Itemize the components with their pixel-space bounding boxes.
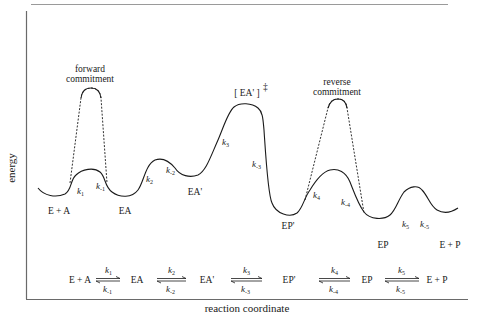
forward-commitment-curve — [70, 88, 107, 183]
rate-label-k-3: k-3 — [252, 159, 261, 170]
equilibrium-arrow-1 — [96, 277, 120, 284]
rate-label-k3: k3 — [222, 137, 229, 148]
scheme-species-ea-prime: EA' — [200, 275, 215, 285]
scheme-k-4: k-4 — [329, 284, 338, 295]
scheme-k1: k1 — [105, 265, 112, 276]
energy-profile-curve — [38, 104, 458, 219]
species-label-e-p: E + P — [439, 240, 460, 250]
reverse-commitment-label-2: commitment — [313, 87, 361, 97]
scheme-species-ea: EA — [131, 275, 144, 285]
rate-label-k-1: k-1 — [96, 181, 105, 192]
reverse-commitment-peak — [328, 99, 347, 108]
energy-diagram: energy reaction coordinate forward commi… — [0, 0, 480, 322]
scheme-k3: k3 — [243, 265, 250, 276]
reaction-scheme: E + A EA EA' EP' EP E + P k1 k2 k3 k4 k5… — [69, 265, 448, 295]
equilibrium-arrow-2 — [157, 277, 186, 284]
forward-commitment-label-2: commitment — [66, 74, 114, 84]
double-dagger-mark: ‡ — [263, 82, 268, 92]
scheme-species-ep: EP — [361, 275, 372, 285]
x-axis-label: reaction coordinate — [205, 302, 290, 314]
scheme-species-ep-prime: EP' — [283, 275, 296, 285]
scheme-k-3: k-3 — [241, 284, 250, 295]
scheme-k-5: k-5 — [396, 284, 405, 295]
species-label-ep-prime: EP' — [282, 221, 295, 231]
scheme-species-e-p: E + P — [426, 275, 447, 285]
equilibrium-arrow-3 — [231, 277, 262, 284]
y-axis-label: energy — [5, 153, 17, 183]
species-label-ep: EP — [377, 240, 388, 250]
scheme-k-2: k-2 — [166, 284, 175, 295]
scheme-k4: k4 — [331, 265, 338, 276]
species-label-ea-prime: EA' — [188, 187, 203, 197]
rate-label-k-5: k-5 — [420, 219, 429, 230]
rate-label-k4: k4 — [313, 190, 320, 201]
forward-commitment-label-1: forward — [75, 64, 105, 74]
scheme-species-e-a: E + A — [69, 275, 91, 285]
rate-label-k-4: k-4 — [341, 197, 350, 208]
rate-label-k2: k2 — [146, 174, 153, 185]
equilibrium-arrow-4 — [319, 277, 350, 284]
scheme-k5: k5 — [398, 265, 405, 276]
scheme-k-1: k-1 — [103, 284, 112, 295]
species-label-e-a: E + A — [48, 206, 70, 216]
equilibrium-arrow-5 — [385, 277, 419, 284]
rate-label-k1: k1 — [77, 186, 84, 197]
forward-commitment-peak — [81, 88, 101, 98]
scheme-k2: k2 — [168, 265, 175, 276]
species-label-ea: EA — [119, 206, 132, 216]
transition-state-label: [ EA' ] — [234, 88, 259, 98]
rate-label-k5: k5 — [402, 219, 409, 230]
reverse-commitment-label-1: reverse — [323, 77, 350, 87]
